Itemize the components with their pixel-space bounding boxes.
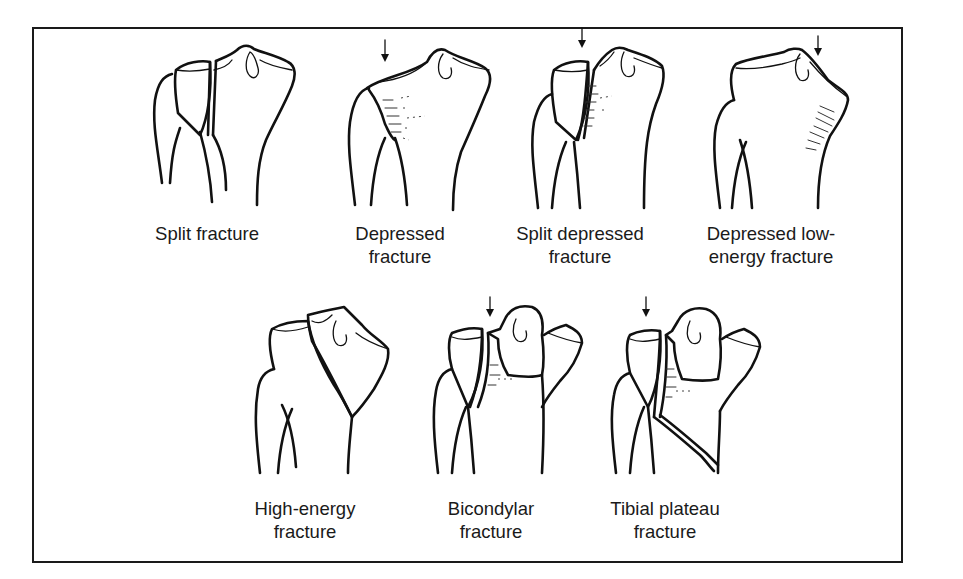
split-depressed-fracture-illustration	[530, 40, 680, 220]
tibial-plateau-fracture-illustration	[610, 295, 760, 485]
fracture-diagram: Split fracture Depressed fracture Split …	[0, 0, 963, 579]
high-energy-fracture-illustration	[252, 305, 402, 485]
arrow-down-icon	[642, 297, 650, 317]
arrow-down-icon	[381, 40, 389, 62]
bicondylar-fracture-illustration	[432, 295, 582, 485]
label-bicondylar-fracture: Bicondylar fracture	[448, 497, 534, 543]
label-tibial-plateau-fracture: Tibial plateau fracture	[610, 497, 719, 543]
arrow-down-icon	[486, 297, 494, 317]
depressed-low-energy-fracture-illustration	[710, 40, 860, 220]
label-depressed-fracture: Depressed fracture	[355, 222, 444, 268]
depressed-fracture-illustration	[345, 40, 505, 220]
label-depressed-low-energy-fracture: Depressed low- energy fracture	[707, 222, 836, 268]
split-fracture-illustration	[150, 40, 300, 220]
label-split-depressed-fracture: Split depressed fracture	[516, 222, 644, 268]
label-split-fracture: Split fracture	[155, 222, 259, 245]
label-high-energy-fracture: High-energy fracture	[255, 497, 356, 543]
